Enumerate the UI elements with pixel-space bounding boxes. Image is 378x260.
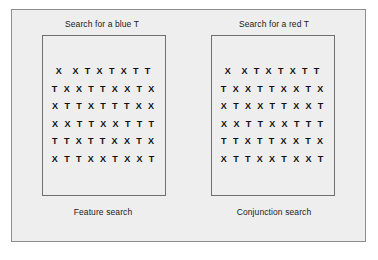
stimulus-row: X T X X T T X X T (221, 98, 325, 116)
panel-caption-conjunction-search: Conjunction search (237, 207, 312, 217)
stimulus-row: X X T T X X T T T (221, 116, 325, 134)
stimulus-row: X T T X X T X X T (221, 151, 325, 169)
stimulus-row: T X X T T X X T X (52, 81, 156, 99)
stimulus-box-conjunction-search: X X T X T X T T T X X T T X X T X X T X … (211, 35, 335, 196)
stimulus-row: T T X T T X X T X (221, 133, 325, 151)
panel-conjunction-search: Search for a red T X X T X T X T T T X X… (194, 19, 352, 233)
stimulus-row: X T T X X T X X T (52, 151, 156, 169)
panel-header-feature-search: Search for a blue T (65, 19, 139, 32)
stimulus-row: X T T X T T T X X (52, 98, 156, 116)
stimulus-row: X X T X T X T T (56, 63, 152, 81)
visual-search-figure: Search for a blue T X X T X T X T T T X … (11, 9, 366, 242)
stimulus-row: T X X T T X X T X (221, 81, 325, 99)
panels-container: Search for a blue T X X T X T X T T T X … (12, 10, 365, 241)
stimulus-box-feature-search: X X T X T X T T T X X T T X X T X X T T … (42, 35, 166, 196)
panel-header-conjunction-search: Search for a red T (239, 19, 309, 32)
stimulus-row: T T X T T X X T X (52, 133, 156, 151)
panel-feature-search: Search for a blue T X X T X T X T T T X … (25, 19, 183, 233)
stimulus-row: X X T T X X T T T (52, 116, 156, 134)
panel-caption-feature-search: Feature search (74, 207, 133, 217)
stimulus-row: X X T X T X T T (225, 63, 321, 81)
